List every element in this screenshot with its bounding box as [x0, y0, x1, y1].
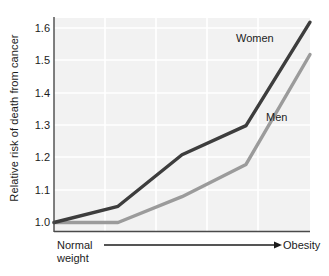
series-label-men: Men — [266, 111, 287, 123]
x-axis-start-label: Normal weight — [57, 239, 92, 265]
series-label-women: Women — [236, 32, 274, 44]
x-axis-end-label: Obesity — [283, 239, 320, 251]
x-axis-arrow — [104, 242, 282, 249]
chart-figure: Relative risk of death from cancer 1.6 1… — [0, 0, 329, 276]
x-axis-start-label-line2: weight — [57, 252, 92, 265]
x-axis-start-label-line1: Normal — [57, 239, 92, 252]
plot-area — [0, 0, 329, 276]
